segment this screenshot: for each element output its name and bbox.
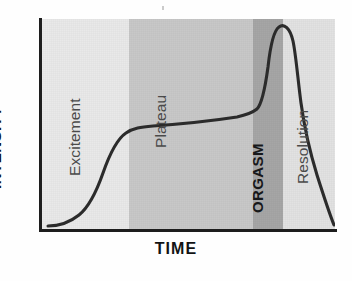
phase-label-plateau: Plateau [152, 95, 170, 148]
phase-label-excitement: Excitement [66, 98, 84, 176]
sexual-response-cycle-chart: Excitement Plateau ORGASM Resolution INT… [0, 0, 352, 281]
y-axis-title: INTENSITY [0, 106, 4, 189]
x-axis-line [39, 229, 337, 232]
response-curve [41, 19, 335, 230]
plot-area [41, 19, 335, 230]
phase-label-resolution: Resolution [294, 110, 312, 184]
x-axis-title: TIME [0, 240, 352, 258]
phase-label-orgasm: ORGASM [249, 143, 266, 213]
response-curve-path [48, 26, 334, 226]
scan-artifact-speck [162, 6, 164, 10]
y-axis-line [39, 18, 42, 232]
